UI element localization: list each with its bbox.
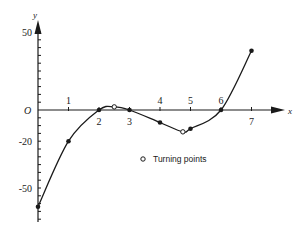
- data-point: [188, 126, 193, 131]
- x-tick-label: 2: [97, 116, 102, 127]
- data-point: [249, 48, 254, 53]
- y-tick-label: -50: [19, 183, 32, 194]
- curve-line: [38, 51, 252, 207]
- chart: y x 1234567 O 50-20-50 Turning points: [0, 0, 299, 246]
- data-point: [36, 204, 41, 209]
- data-point: [219, 108, 224, 113]
- y-axis-label: y: [32, 10, 37, 20]
- x-tick-label: 6: [219, 95, 224, 106]
- x-tick-label: 3: [127, 116, 132, 127]
- turning-point: [112, 105, 116, 109]
- x-tick-label: 7: [249, 116, 254, 127]
- x-axis-arrow-icon: [271, 107, 285, 114]
- x-axis: x 1234567: [38, 95, 292, 127]
- y-axis: y: [32, 10, 42, 222]
- data-point: [158, 120, 163, 125]
- y-tick-label: -20: [19, 136, 32, 147]
- x-axis-label: x: [287, 106, 292, 116]
- legend-label: Turning points: [153, 154, 207, 164]
- x-tick-label: 4: [158, 95, 163, 106]
- data-point: [66, 139, 71, 144]
- turning-point-legend-icon: [141, 157, 145, 161]
- origin-label: O: [24, 105, 31, 116]
- x-tick-label: 5: [188, 95, 193, 106]
- data-point: [97, 108, 102, 113]
- legend: Turning points: [141, 154, 207, 164]
- turning-point: [181, 130, 185, 134]
- y-tick-label: 50: [22, 27, 32, 38]
- data-point: [127, 108, 132, 113]
- x-tick-label: 1: [66, 95, 71, 106]
